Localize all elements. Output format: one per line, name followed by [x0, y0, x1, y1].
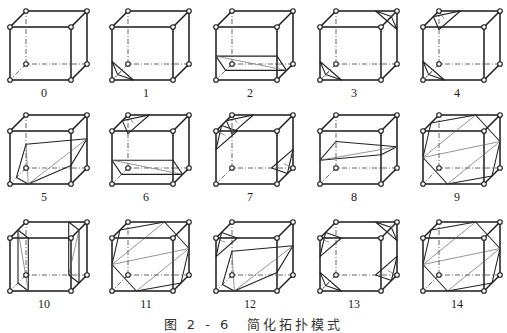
cube-vertex — [482, 129, 487, 134]
cube-edge — [277, 64, 293, 80]
cube-edge — [484, 222, 500, 238]
cube-vertex — [69, 289, 74, 294]
cube-vertex — [85, 166, 90, 171]
case-label: 3 — [351, 86, 357, 100]
cube-case-2: 2 — [214, 9, 296, 100]
cube-edge — [484, 115, 500, 131]
case-label: 10 — [38, 297, 50, 311]
cube-vertex — [437, 273, 442, 278]
cube-vertex — [171, 25, 176, 30]
cube-vertex — [498, 220, 503, 225]
cube-case-14: 14 — [421, 220, 503, 311]
case-label: 9 — [454, 190, 460, 204]
cube-vertex — [126, 9, 131, 14]
case-label: 11 — [140, 297, 152, 311]
iso-diagonal — [423, 222, 476, 265]
cube-vertex — [110, 25, 115, 30]
cube-vertex — [421, 25, 426, 30]
cube-vertex — [395, 9, 400, 14]
cube-case-0: 0 — [8, 9, 90, 100]
iso-diagonal — [18, 230, 28, 291]
cube-vertex — [126, 62, 131, 67]
case-label: 14 — [451, 297, 463, 311]
cube-vertex — [85, 9, 90, 14]
cube-vertex — [334, 273, 339, 278]
cube-vertex — [291, 9, 296, 14]
cube-vertex — [482, 289, 487, 294]
cube-vertex — [318, 129, 323, 134]
cube-edge — [277, 222, 293, 238]
case-label: 8 — [351, 190, 357, 204]
hidden-edge — [320, 168, 336, 184]
cube-vertex — [126, 220, 131, 225]
cube-vertex — [334, 62, 339, 67]
cube-vertex — [498, 113, 503, 118]
cube-vertex — [8, 289, 13, 294]
cube-vertex — [421, 78, 426, 83]
cube-vertex — [230, 166, 235, 171]
cube-edge — [173, 115, 189, 131]
cube-vertex — [318, 236, 323, 241]
cube-vertex — [126, 113, 131, 118]
cube-case-10: 10 — [8, 220, 90, 311]
cube-vertex — [318, 289, 323, 294]
cube-edge — [71, 115, 87, 131]
cube-vertex — [171, 78, 176, 83]
case-label: 7 — [247, 190, 253, 204]
iso-diagonal — [112, 249, 189, 265]
cube-vertex — [85, 62, 90, 67]
case-label: 6 — [143, 190, 149, 204]
cube-edge — [484, 11, 500, 27]
cube-vertex — [230, 220, 235, 225]
cube-vertex — [187, 220, 192, 225]
cube-vertex — [8, 25, 13, 30]
cube-vertex — [379, 236, 384, 241]
cube-vertex — [8, 236, 13, 241]
cube-vertex — [395, 220, 400, 225]
cube-vertex — [275, 25, 280, 30]
iso-diagonal — [216, 56, 287, 70]
case-label: 13 — [348, 297, 360, 311]
cube-vertex — [110, 129, 115, 134]
cube-case-9: 9 — [421, 113, 503, 204]
cube-edge — [173, 168, 189, 184]
iso-triangle — [376, 256, 397, 280]
cube-vertex — [171, 289, 176, 294]
iso-diagonal — [136, 249, 189, 292]
cube-vertex — [379, 182, 384, 187]
cube-vertex — [214, 182, 219, 187]
cube-vertex — [395, 166, 400, 171]
case-label: 5 — [41, 190, 47, 204]
cube-vertex — [334, 220, 339, 225]
cube-vertex — [379, 289, 384, 294]
iso-diagonal — [423, 142, 500, 158]
case-label: 1 — [143, 86, 149, 100]
hidden-edge — [423, 275, 439, 291]
cube-vertex — [69, 129, 74, 134]
cube-vertex — [187, 166, 192, 171]
iso-diagonal — [320, 147, 397, 160]
cube-case-4: 4 — [421, 9, 503, 100]
cube-edge — [484, 64, 500, 80]
cube-vertex — [187, 9, 192, 14]
cube-edge — [381, 64, 397, 80]
cube-vertex — [171, 129, 176, 134]
cube-vertex — [437, 220, 442, 225]
cube-vertex — [395, 113, 400, 118]
cube-vertex — [8, 182, 13, 187]
cube-vertex — [85, 273, 90, 278]
cube-vertex — [85, 113, 90, 118]
cube-vertex — [230, 113, 235, 118]
cube-edge — [173, 222, 189, 238]
cube-vertex — [437, 166, 442, 171]
cube-vertex — [8, 78, 13, 83]
cube-vertex — [291, 273, 296, 278]
cube-vertex — [8, 129, 13, 134]
cube-vertex — [275, 129, 280, 134]
cube-vertex — [437, 9, 442, 14]
cube-vertex — [437, 62, 442, 67]
cube-vertex — [318, 25, 323, 30]
cube-edge — [381, 168, 397, 184]
cube-vertex — [498, 9, 503, 14]
